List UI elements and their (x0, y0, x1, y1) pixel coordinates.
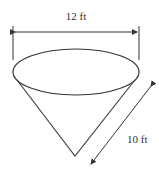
cone (13, 49, 139, 156)
slant-label: 10 ft (127, 133, 147, 145)
cone-diagram: 12 ft 10 ft (0, 0, 159, 171)
diameter-label: 12 ft (66, 10, 86, 22)
cone-top-ellipse (13, 49, 139, 95)
